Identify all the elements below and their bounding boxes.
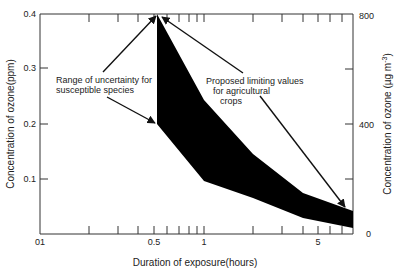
x-ticks-bottom [89, 226, 342, 234]
y-left-tick-0.4: 0.4 [23, 9, 36, 19]
x-tick-0.5: 0.5 [148, 237, 161, 247]
y-right-tick-labels: 800 400 0 [359, 11, 374, 239]
y-axis-left-title: Concentration of ozone(ppm) [5, 59, 16, 189]
y-right-tick-0: 0 [366, 229, 371, 239]
y-left-tick-labels: 0.4 0.3 0.2 0.1 [23, 9, 36, 184]
y-right-tick-400: 400 [359, 120, 374, 130]
annotation-uncertainty: Range of uncertainty for susceptible spe… [56, 16, 156, 123]
arrow-uncertainty-top [103, 16, 156, 72]
x-tick-labels: 01 0.5 1 5 [35, 237, 321, 247]
y-ticks-right [345, 69, 353, 179]
x-axis-title: Duration of exposure(hours) [133, 257, 258, 268]
y-left-tick-0.1: 0.1 [23, 174, 36, 184]
y-axis-right-title: Concentration of ozone (µg m-3) [381, 53, 393, 195]
annotation-limiting-line3: crops [220, 96, 243, 106]
x-tick-5: 5 [315, 237, 320, 247]
x-ticks-top [89, 14, 342, 22]
annotation-limiting-line1: Proposed limiting values [206, 76, 304, 86]
ozone-exposure-chart: 01 0.5 1 5 0.4 0.3 0.2 0.1 800 400 0 Dur… [0, 0, 400, 272]
annotation-uncertainty-line2: susceptible species [56, 85, 135, 95]
arrow-uncertainty-bottom [107, 97, 155, 123]
y-left-tick-0.2: 0.2 [23, 119, 36, 129]
x-tick-0.1: 01 [35, 237, 45, 247]
x-tick-1: 1 [201, 237, 206, 247]
y-ticks-left [40, 68, 48, 179]
annotation-uncertainty-line1: Range of uncertainty for [56, 75, 152, 85]
uncertainty-band [157, 14, 353, 228]
y-left-tick-0.3: 0.3 [23, 63, 36, 73]
y-right-tick-800: 800 [359, 11, 374, 21]
annotation-limiting-line2: for agricultural [213, 86, 270, 96]
